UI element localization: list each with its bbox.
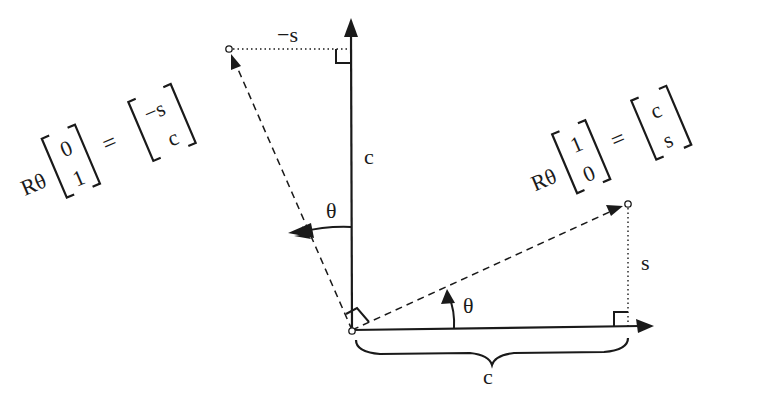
e2-theta-label: θ: [326, 198, 337, 223]
equation-e1: Rθ 1 0 = c s: [517, 86, 691, 208]
e1-input-top: 1: [566, 130, 586, 157]
right-angle-mark-origin: [346, 308, 369, 322]
rotated-e1-vector: [352, 201, 631, 330]
e1-equals-label: =: [607, 124, 630, 153]
e1-input-bottom: 0: [579, 160, 599, 187]
e1-arrowhead-icon: [606, 205, 623, 216]
e2-input-bottom: 1: [69, 164, 89, 191]
right-angle-mark-top: [336, 49, 350, 63]
e2-operator-label: Rθ: [17, 168, 50, 201]
e1-angle-arc: [441, 289, 455, 329]
e1-angle-arrowhead-icon: [441, 289, 455, 304]
x-axis-arrowhead-icon: [636, 319, 654, 333]
y-axis-arrowhead-icon: [344, 18, 358, 37]
e1-output-bottom: s: [659, 127, 677, 153]
point-neg-s-c: [226, 46, 232, 52]
s-component-label: s: [641, 250, 650, 275]
origin-point: [349, 328, 355, 334]
right-angle-mark-right: [614, 312, 628, 327]
equation-e2: Rθ 0 1 = −s c: [7, 84, 196, 212]
e2-equals-label: =: [98, 128, 121, 157]
vertical-axis-c-label: c: [364, 144, 374, 169]
neg-s-component-label: −s: [277, 22, 298, 47]
e2-output-bottom: c: [163, 124, 182, 151]
x-axis: [352, 319, 654, 333]
rotated-e2-vector: [226, 46, 352, 330]
e2-input-top: 0: [56, 135, 76, 162]
e1-operator-label: Rθ: [527, 163, 560, 196]
brace-under-x-axis: [356, 338, 628, 365]
e1-output-top: c: [647, 97, 666, 124]
e1-theta-label: θ: [463, 293, 474, 318]
brace-c-label: c: [483, 364, 493, 389]
y-axis: [344, 18, 358, 330]
e2-output-top: −s: [140, 95, 169, 126]
e2-arrowhead-icon: [231, 54, 241, 70]
rotation-diagram: c s θ −s θ c Rθ 1 0: [0, 0, 763, 402]
point-c-s: [625, 201, 631, 207]
